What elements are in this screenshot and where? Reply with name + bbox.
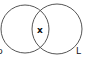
- intersection-label: x: [37, 26, 43, 35]
- right-circle-label: L: [76, 47, 81, 56]
- venn-diagram: [0, 0, 86, 61]
- left-circle-label: p: [0, 47, 3, 56]
